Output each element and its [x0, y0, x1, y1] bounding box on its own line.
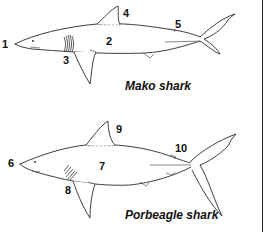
label-7-body: 7: [99, 161, 105, 172]
label-10-second-dorsal: 10: [175, 143, 187, 154]
label-5-second-dorsal: 5: [175, 19, 181, 30]
label-1-snout: 1: [2, 39, 8, 50]
label-4-dorsal-fin: 4: [123, 8, 129, 19]
porbeagle-shark-illustration: [0, 0, 267, 232]
mako-shark-caption: Mako shark: [125, 80, 191, 92]
label-6-snout: 6: [8, 158, 14, 169]
porbeagle-shark-caption: Porbeagle shark: [125, 209, 218, 221]
label-9-dorsal-fin: 9: [116, 124, 122, 135]
shark-comparison-diagram: 1 2 3 4 5 Mako shark 6 7 8 9 10 Porbeagl…: [0, 0, 267, 232]
label-3-gills: 3: [63, 55, 69, 66]
label-2-body: 2: [106, 36, 112, 47]
label-8-gills: 8: [65, 185, 71, 196]
